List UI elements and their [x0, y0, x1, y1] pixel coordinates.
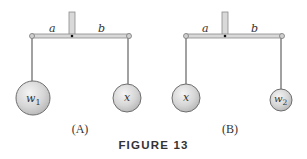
balance-beam — [186, 34, 282, 38]
panel-label-b: (B) — [222, 122, 238, 136]
weight-label-x: x — [124, 91, 131, 104]
left-joint — [184, 34, 189, 39]
arm-label-a: a — [49, 22, 56, 35]
figure-caption: FIGURE 13 — [0, 139, 307, 151]
pivot-dot — [224, 35, 227, 38]
left-joint — [30, 34, 35, 39]
right-joint — [127, 34, 132, 39]
weight-label-x: x — [183, 91, 190, 104]
arm-label-a: a — [202, 22, 209, 35]
panel-label-a: (A) — [72, 122, 89, 136]
support-post — [222, 12, 228, 37]
arm-label-b: b — [98, 22, 105, 35]
balance-diagram: a b w1 x (A) a b x w2 (B) — [0, 0, 307, 159]
support-post — [69, 12, 75, 37]
panel-a: a b w1 x (A) — [16, 12, 141, 136]
right-joint — [280, 34, 285, 39]
arm-label-b: b — [251, 22, 258, 35]
panel-b: a b x w2 (B) — [172, 12, 292, 136]
pivot-dot — [71, 35, 74, 38]
balance-beam — [32, 34, 130, 38]
